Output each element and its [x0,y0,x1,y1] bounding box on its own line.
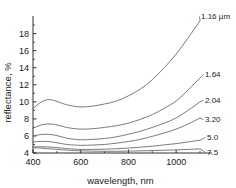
x-tick-label-1000: 1000 [166,157,186,167]
leader-line-4 [200,138,206,141]
curve-label-5-0: 5.0 [207,133,219,142]
y-tick-label-18: 18 [19,29,29,39]
reflectance-chart-figure: 46810121416184006008001000wavelength, nm… [0,0,236,188]
chart-svg: 46810121416184006008001000wavelength, nm… [0,0,236,188]
x-tick-label-400: 400 [25,157,40,167]
y-tick-label-14: 14 [19,63,29,73]
y-tick-label-10: 10 [19,97,29,107]
y-tick-label-12: 12 [19,80,29,90]
leader-line-2 [200,101,204,102]
leader-line-3 [200,118,204,119]
curve-1-64 [33,78,200,129]
y-tick-label-6: 6 [24,131,29,141]
leader-line-5 [200,149,206,153]
y-tick-label-8: 8 [24,114,29,124]
curve-label-1-64: 1.64 [205,70,221,79]
curve-3-20 [33,118,200,145]
curve-label-2-04: 2.04 [205,96,221,105]
curve-label-3-20: 3.20 [205,115,221,124]
leader-line-0 [200,17,201,21]
curve-1-16-m [33,21,200,109]
x-tick-label-600: 600 [73,157,88,167]
curve-5-0 [33,140,200,149]
curve-label-7-5: 7.5 [207,148,219,157]
y-tick-label-16: 16 [19,46,29,56]
leader-line-1 [200,75,204,78]
curve-label-1-16-m: 1.16 µm [201,12,230,21]
curve-2-04 [33,102,200,140]
x-tick-label-800: 800 [121,157,136,167]
y-axis-title: reflectance, % [2,62,13,123]
curve-7-5 [33,148,200,152]
x-axis-title: wavelength, nm [86,175,154,186]
